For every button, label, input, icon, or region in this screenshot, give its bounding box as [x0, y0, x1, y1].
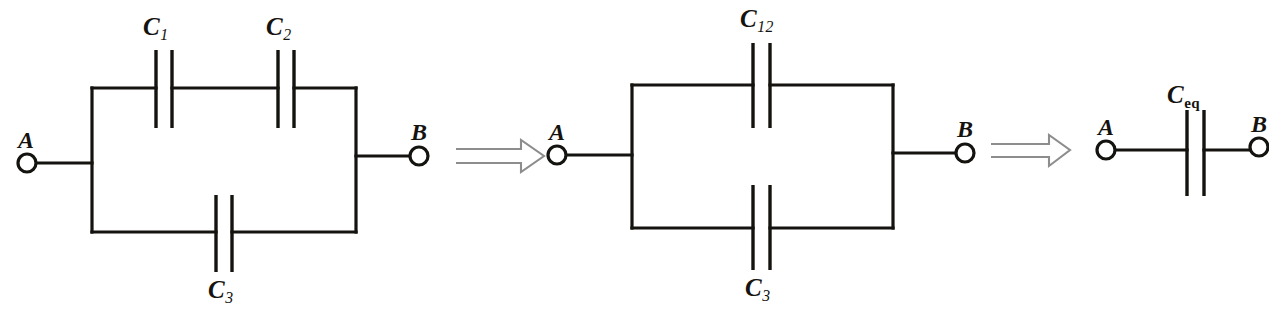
stage-1-terminal-a — [18, 154, 36, 172]
stage-1-terminal-b — [410, 147, 428, 165]
label-c2: C2 — [266, 14, 291, 39]
stage-1-capacitor-c3 — [216, 195, 232, 272]
label-terminal-b-stage-3: B — [1251, 112, 1267, 136]
stage-2-terminal-b — [956, 144, 974, 162]
label-terminal-b-stage-2: B — [957, 117, 973, 141]
stage-2-terminal-a — [548, 146, 566, 164]
stage-3-terminal-b — [1250, 138, 1268, 156]
label-c12: C12 — [740, 6, 773, 31]
label-terminal-a-stage-3: A — [1098, 115, 1114, 139]
label-c3-stage-2: C3 — [745, 275, 770, 300]
arrow-2-icon — [991, 135, 1070, 166]
label-terminal-a-stage-2: A — [549, 120, 565, 144]
label-c1: C1 — [143, 14, 168, 39]
arrow-1-icon — [456, 140, 544, 172]
stage-3-circuit — [1097, 110, 1268, 196]
circuit-linework — [0, 0, 1269, 315]
label-ceq: Ceq — [1167, 82, 1200, 107]
label-terminal-b-stage-1: B — [411, 120, 427, 144]
stage-2-circuit — [548, 43, 974, 270]
stage-1-capacitor-c2 — [278, 50, 294, 128]
label-terminal-a-stage-1: A — [18, 128, 34, 152]
stage-3-capacitor-ceq — [1187, 110, 1204, 196]
capacitor-reduction-figure: C1 C2 C3 A B C12 C3 A B Ceq A B — [0, 0, 1269, 315]
stage-1-circuit — [18, 50, 428, 272]
label-c3-stage-1: C3 — [208, 277, 233, 302]
stage-2-capacitor-c3 — [753, 185, 770, 270]
stage-1-capacitor-c1 — [156, 50, 172, 128]
stage-2-capacitor-c12 — [753, 43, 770, 128]
stage-3-terminal-a — [1097, 141, 1115, 159]
